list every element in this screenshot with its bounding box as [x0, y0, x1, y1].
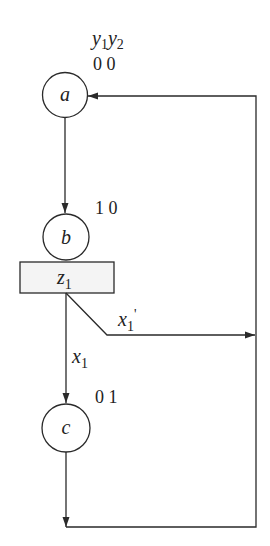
output-box-z1: z1: [20, 262, 114, 293]
return-path-to-a: [66, 96, 256, 527]
state-b-label: b: [61, 226, 71, 248]
state-c: c: [42, 404, 90, 452]
state-c-label: c: [62, 416, 71, 438]
state-code-c: 0 1: [95, 387, 118, 407]
condition-x1-label: x1: [71, 345, 88, 371]
condition-x1-prime-label: x1': [117, 307, 136, 334]
state-code-a: 0 0: [93, 54, 116, 74]
state-b: b: [43, 214, 89, 260]
state-code-b: 1 0: [95, 198, 118, 218]
state-a-label: a: [60, 83, 70, 105]
asm-diagram: y1y2 0 0 a 1 0 b z1 x1' x1 0 1 c: [0, 0, 270, 546]
state-variable-header: y1y2: [90, 27, 124, 52]
state-a: a: [43, 73, 88, 118]
transition-x1-prime-to-a: [66, 293, 255, 335]
